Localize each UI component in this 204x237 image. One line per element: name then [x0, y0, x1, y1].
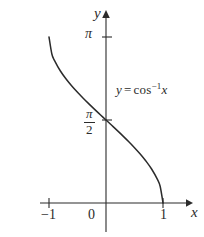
y-axis-label: y: [94, 6, 101, 21]
x-tick-label-one: 1: [160, 208, 167, 222]
fraction-denominator: 2: [84, 123, 95, 137]
equation-exponent: −1: [151, 81, 161, 91]
fraction-pi-over-2: π 2: [84, 107, 95, 136]
y-tick-label-pi: π: [85, 27, 92, 41]
equation-equals-sign: =: [122, 82, 134, 97]
y-axis-arrowhead: [102, 10, 110, 18]
x-tick-label-zero: 0: [88, 208, 95, 222]
x-axis-label: x: [191, 205, 198, 220]
arccos-graph-figure: y x π π 2 −1 0 1 y=cos−1x: [0, 0, 204, 237]
y-tick-label-pi-over-2: π 2: [84, 107, 95, 136]
equation-argument: x: [161, 82, 167, 97]
plot-canvas: [0, 0, 204, 237]
x-tick-label-neg-one: −1: [41, 208, 56, 222]
fraction-numerator: π: [84, 107, 95, 121]
equation-function-name: cos: [134, 82, 152, 97]
curve-equation-annotation: y=cos−1x: [116, 83, 167, 96]
